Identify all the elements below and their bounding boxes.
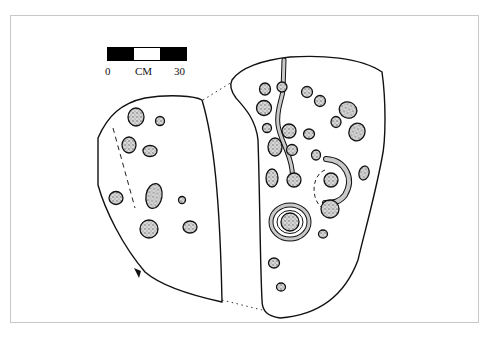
left-slab [98, 96, 222, 302]
right-cup-marks [257, 82, 371, 291]
connector-lines [203, 82, 262, 310]
north-arrow-icon [134, 268, 141, 278]
stone-drawing [0, 0, 491, 339]
right-slab [231, 56, 385, 318]
left-cup-marks [109, 108, 197, 238]
